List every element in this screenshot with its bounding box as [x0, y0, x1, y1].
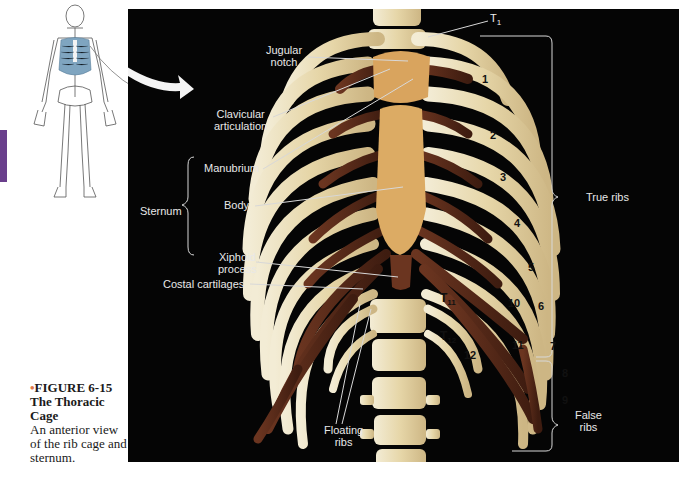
false-ribs-line1: False: [575, 409, 602, 421]
label-costal-cartilages: Costal cartilages: [163, 278, 244, 290]
xiphoid-line2: process: [218, 263, 257, 275]
xiphoid-line1: Xiphoid: [218, 251, 257, 263]
rib-number-6: 6: [538, 300, 544, 312]
label-t12: T12: [440, 329, 456, 345]
rib-number-5: 5: [528, 261, 534, 273]
jugular-notch-line2: notch: [266, 56, 302, 68]
label-sternum: Sternum: [140, 205, 182, 217]
floating-ribs-line1: Floating: [324, 424, 363, 436]
t1-subscript: 1: [497, 18, 501, 27]
label-xiphoid-process: Xiphoid process: [218, 251, 257, 275]
rib-number-7: 7: [550, 340, 556, 352]
clavicular-line1: Clavicular: [214, 108, 267, 120]
rib-number-11: 11: [512, 339, 524, 351]
t11-subscript: 11: [447, 298, 455, 307]
rib-number-12: 12: [464, 349, 476, 361]
label-true-ribs: True ribs: [586, 191, 629, 203]
t12-subscript: 12: [447, 336, 456, 345]
rib-number-1: 1: [482, 73, 488, 85]
label-body: Body: [224, 199, 249, 211]
figure-title-line1: The Thoracic: [30, 395, 130, 409]
label-floating-ribs: Floating ribs: [324, 424, 363, 448]
rib-number-9: 9: [562, 394, 568, 406]
label-jugular-notch: Jugular notch: [266, 44, 302, 68]
label-false-ribs: False ribs: [575, 409, 602, 433]
figure-number: •FIGURE 6-15: [30, 381, 130, 395]
figure-caption: •FIGURE 6-15 The Thoracic Cage An anteri…: [30, 381, 130, 465]
arrow-icon: [90, 46, 130, 102]
false-ribs-line2: ribs: [575, 421, 602, 433]
figure-title-line2: Cage: [30, 409, 130, 423]
label-t1: T1: [490, 12, 501, 29]
skeleton-thumbnail: [20, 2, 130, 207]
chapter-tab: [0, 130, 7, 182]
figure-number-text: FIGURE 6-15: [35, 380, 113, 395]
pointer-arrow-icon: [128, 61, 194, 99]
rib-number-4: 4: [514, 217, 520, 229]
highlighted-thorax-icon: [59, 38, 91, 76]
thoracic-cage-photo: T1 Jugular notch Clavicular articulation…: [128, 9, 679, 462]
t1-letter: T: [490, 12, 497, 24]
rib-number-8: 8: [562, 367, 568, 379]
rib-number-3: 3: [500, 171, 506, 183]
label-clavicular-articulation: Clavicular articulation: [214, 108, 267, 132]
label-t11: T11: [440, 291, 456, 307]
rib-number-10: 10: [508, 297, 520, 309]
clavicular-line2: articulation: [214, 120, 267, 132]
rib-number-2: 2: [490, 129, 496, 141]
figure-description: An anterior view of the rib cage and ste…: [30, 423, 130, 465]
floating-ribs-line2: ribs: [324, 436, 363, 448]
jugular-notch-line1: Jugular: [266, 44, 302, 56]
label-manubrium: Manubrium: [204, 162, 259, 174]
